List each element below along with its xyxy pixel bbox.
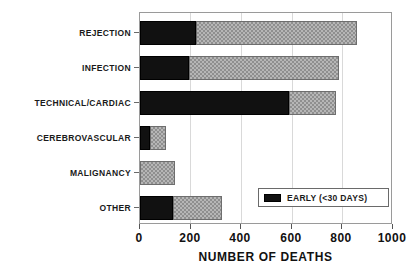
- y-tick: [134, 67, 139, 68]
- category-label-text: MALIGNANCY: [70, 168, 131, 178]
- category-label-text: TECHNICAL/CARDIAC: [34, 98, 131, 108]
- x-tick: [291, 224, 292, 229]
- x-tick: [190, 224, 191, 229]
- category-label-rejection: REJECTION: [0, 28, 131, 38]
- y-tick: [134, 207, 139, 208]
- category-label-cerebrovascular: CEREBROVASCULAR: [0, 133, 131, 143]
- x-tick: [240, 224, 241, 229]
- category-label-text: CEREBROVASCULAR: [37, 133, 131, 143]
- legend-swatch-early: [264, 194, 281, 202]
- bar-segment-early: [140, 56, 189, 80]
- y-tick: [134, 137, 139, 138]
- bar-segment-late: [289, 91, 336, 115]
- x-axis-title: NUMBER OF DEATHS: [139, 250, 392, 264]
- bar-segment-late: [189, 56, 339, 80]
- bar-segment-late: [150, 126, 166, 150]
- x-tick: [139, 224, 140, 229]
- category-label-text: REJECTION: [79, 28, 131, 38]
- bar-segment-early: [140, 126, 150, 150]
- x-tick-label: 1000: [362, 231, 419, 245]
- y-tick: [134, 102, 139, 103]
- legend-label-early: EARLY (<30 DAYS): [287, 193, 367, 203]
- y-tick: [134, 172, 139, 173]
- y-tick: [134, 32, 139, 33]
- bar-segment-late: [173, 196, 222, 220]
- category-label-text: OTHER: [100, 203, 132, 213]
- bar-segment-early: [140, 21, 196, 45]
- bar-segment-early: [140, 196, 173, 220]
- category-label-malignancy: MALIGNANCY: [0, 168, 131, 178]
- category-label-text: INFECTION: [82, 63, 131, 73]
- bar-chart: REJECTION INFECTION TECHNICAL/CARDIAC CE…: [0, 0, 419, 280]
- bar-segment-late: [140, 161, 175, 185]
- category-label-other: OTHER: [0, 203, 131, 213]
- bar-segment-early: [140, 91, 289, 115]
- category-label-technical-cardiac: TECHNICAL/CARDIAC: [0, 98, 131, 108]
- category-label-infection: INFECTION: [0, 63, 131, 73]
- x-tick: [341, 224, 342, 229]
- chart-legend: EARLY (<30 DAYS): [258, 188, 389, 207]
- bar-segment-late: [196, 21, 357, 45]
- x-tick: [392, 224, 393, 229]
